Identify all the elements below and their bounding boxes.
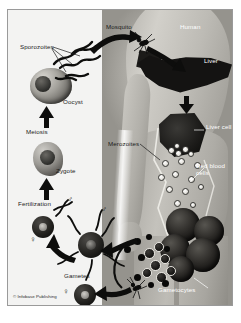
label-liver: Liver [204, 57, 218, 64]
photo-label-leaders [190, 130, 208, 288]
male-symbol-gametes: ♂ [101, 206, 107, 214]
label-zygote: Zygote [56, 167, 76, 174]
label-red-blood-cells: Red blood cells [196, 162, 226, 176]
malaria-life-cycle-figure: ♂ ♀ ♂ ♀ Sporozoites Oocyst Meiosis Zygot… [0, 0, 241, 323]
label-oocyst: Oocyst [63, 98, 83, 105]
label-human: Human [180, 23, 200, 30]
life-cycle-vector-art [8, 10, 232, 305]
female-symbol-bottom: ♀ [63, 288, 69, 296]
male-symbol: ♂ [67, 196, 73, 204]
copyright-notice: © Infobase Publishing [13, 294, 57, 299]
label-merozoites: Merozoites [108, 140, 139, 147]
merozoite-label-leader [140, 144, 160, 160]
female-symbol: ♀ [30, 236, 36, 244]
cycle-arrows [39, 30, 194, 301]
label-liver-cell: Liver cell [206, 123, 233, 130]
arrow-mosquito-to-liver [146, 46, 178, 68]
label-mosquito: Mosquito [106, 23, 132, 30]
label-gametocytes: Gametocytes [158, 286, 196, 293]
figure-frame: ♂ ♀ ♂ ♀ Sporozoites Oocyst Meiosis Zygot… [7, 9, 233, 306]
arrow-sporozoites-to-mosquito [90, 34, 134, 54]
label-gametes: Gametes [64, 272, 90, 279]
label-fertilization: Fertilization [18, 200, 51, 207]
label-sporozoites: Sporozoites [20, 43, 54, 50]
label-meiosis: Meiosis [26, 128, 48, 135]
